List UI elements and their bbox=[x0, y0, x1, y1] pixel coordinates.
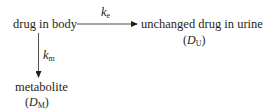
node-urine-label: unchanged drug in urine bbox=[141, 17, 263, 31]
metabolite-symbol-subscript: M bbox=[38, 101, 45, 110]
urine-symbol: (DU) bbox=[183, 33, 205, 51]
metabolite-symbol-d: D bbox=[29, 95, 38, 109]
rate-km-subscript: m bbox=[49, 54, 55, 63]
node-drug-in-body: drug in body bbox=[13, 17, 77, 31]
rate-ke-subscript: e bbox=[107, 11, 111, 20]
node-drug-in-body-label: drug in body bbox=[13, 17, 77, 31]
metabolite-symbol: (DM) bbox=[25, 95, 49, 112]
urine-symbol-d: D bbox=[187, 33, 196, 47]
rate-constant-km: km bbox=[43, 48, 55, 66]
node-metabolite: metabolite bbox=[15, 80, 68, 94]
node-metabolite-label: metabolite bbox=[15, 80, 68, 94]
rate-constant-ke: ke bbox=[101, 5, 110, 23]
elimination-diagram: drug in body ke unchanged drug in urine … bbox=[0, 0, 263, 112]
node-unchanged-drug-in-urine: unchanged drug in urine bbox=[141, 17, 263, 31]
